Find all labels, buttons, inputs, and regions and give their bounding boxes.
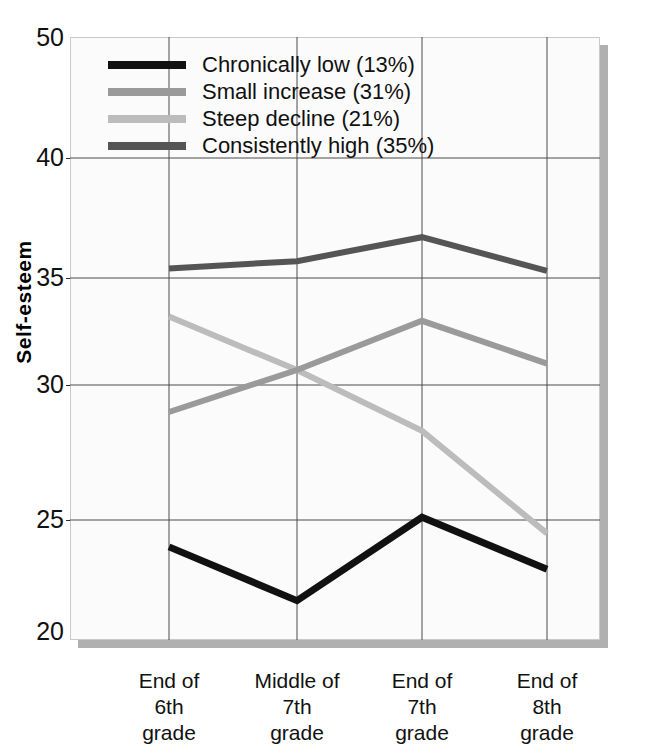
chart-legend: Chronically low (13%)Small increase (31%… — [108, 52, 438, 160]
legend-item[interactable]: Steep decline (21%) — [108, 106, 438, 131]
legend-swatch-icon — [108, 61, 186, 69]
legend-item[interactable]: Chronically low (13%) — [108, 52, 438, 77]
series-line — [169, 517, 547, 600]
y-axis-tick-label: 25 — [18, 507, 64, 532]
legend-item-label: Steep decline (21%) — [202, 108, 400, 130]
chart-figure: Self-esteem 504035302520 Chronically low… — [0, 0, 650, 755]
legend-item-label: Chronically low (13%) — [202, 54, 415, 76]
y-axis-labels: 504035302520 — [8, 0, 64, 755]
legend-item-label: Consistently high (35%) — [202, 135, 434, 157]
legend-swatch-icon — [108, 142, 186, 150]
y-axis-tick-label: 20 — [18, 619, 64, 644]
y-axis-tick-label: 50 — [18, 25, 64, 50]
y-axis-tick-label: 35 — [18, 265, 64, 290]
x-axis-tick-label-line: End of — [472, 668, 622, 694]
legend-item[interactable]: Consistently high (35%) — [108, 133, 438, 158]
legend-swatch-icon — [108, 115, 186, 123]
x-axis-tick-label-line: grade — [472, 720, 622, 746]
x-axis-tick-label: End of8thgrade — [472, 668, 622, 746]
series-line — [169, 237, 547, 271]
legend-swatch-icon — [108, 88, 186, 96]
y-axis-tick-label: 30 — [18, 372, 64, 397]
legend-item[interactable]: Small increase (31%) — [108, 79, 438, 104]
x-axis-labels: End of6thgradeMiddle of7thgradeEnd of7th… — [70, 660, 600, 755]
y-axis-tick-label: 40 — [18, 145, 64, 170]
x-axis-tick-label-line: 8th — [472, 694, 622, 720]
legend-item-label: Small increase (31%) — [202, 81, 411, 103]
